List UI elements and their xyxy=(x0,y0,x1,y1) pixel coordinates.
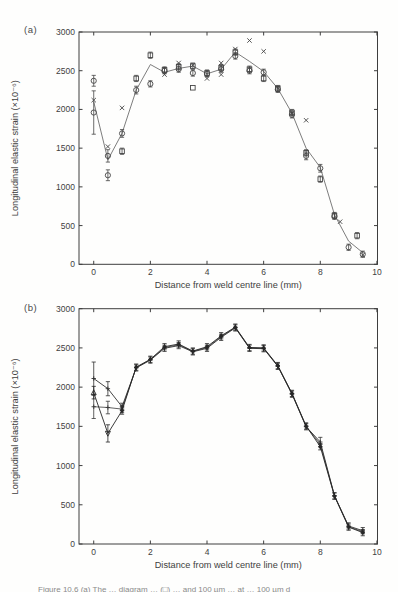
cross-markers-series xyxy=(92,38,365,257)
svg-text:0: 0 xyxy=(70,259,75,269)
svg-text:2000: 2000 xyxy=(56,382,75,392)
svg-text:0: 0 xyxy=(70,539,75,549)
circle-markers-series xyxy=(91,53,365,257)
chart-a-canvas: 0246810050010001500200025003000Distance … xyxy=(0,0,398,296)
svg-text:2: 2 xyxy=(148,267,153,277)
svg-text:10: 10 xyxy=(372,547,382,557)
svg-text:1500: 1500 xyxy=(56,421,75,431)
axes: 0246810050010001500200025003000 xyxy=(56,304,382,557)
svg-text:6: 6 xyxy=(261,547,266,557)
svg-text:500: 500 xyxy=(61,221,75,231)
svg-text:4: 4 xyxy=(205,267,210,277)
x-axis-label: Distance from weld centre line (mm) xyxy=(155,560,302,570)
y-axis-label: Longitudinal elastic strain (×10⁻⁶) xyxy=(10,358,20,494)
strain-profile-lower-series xyxy=(92,325,365,534)
svg-text:3000: 3000 xyxy=(56,304,75,314)
svg-text:2000: 2000 xyxy=(56,104,75,114)
svg-text:8: 8 xyxy=(318,267,323,277)
y-axis-label: Longitudinal elastic strain (×10⁻⁶) xyxy=(10,80,20,216)
svg-text:6: 6 xyxy=(261,267,266,277)
smoothed-profile-line-series xyxy=(94,52,363,253)
chart-b-canvas: 0246810050010001500200025003000Distance … xyxy=(0,296,398,592)
svg-text:10: 10 xyxy=(372,267,382,277)
figure-caption-clipped: Figure 10.6 (a) The … diagram … (□) … an… xyxy=(38,583,394,592)
svg-text:3000: 3000 xyxy=(56,27,75,37)
svg-text:500: 500 xyxy=(61,500,75,510)
svg-text:0: 0 xyxy=(91,267,96,277)
svg-text:8: 8 xyxy=(318,547,323,557)
svg-text:1500: 1500 xyxy=(56,143,75,153)
svg-text:1000: 1000 xyxy=(56,461,75,471)
svg-text:1000: 1000 xyxy=(56,182,75,192)
strain-profile-upper-series xyxy=(92,325,365,534)
svg-text:0: 0 xyxy=(91,547,96,557)
chart-panel-b: (b) 0246810050010001500200025003000Dista… xyxy=(0,296,398,592)
square-markers-series xyxy=(120,49,360,239)
svg-text:2500: 2500 xyxy=(56,343,75,353)
svg-text:2: 2 xyxy=(148,547,153,557)
x-axis-label: Distance from weld centre line (mm) xyxy=(155,280,302,290)
strain-profile-middle-series xyxy=(91,324,365,536)
svg-text:2500: 2500 xyxy=(56,66,75,76)
axes: 0246810050010001500200025003000 xyxy=(56,27,382,277)
svg-text:4: 4 xyxy=(205,547,210,557)
chart-panel-a: (a) 0246810050010001500200025003000Dista… xyxy=(0,0,398,296)
